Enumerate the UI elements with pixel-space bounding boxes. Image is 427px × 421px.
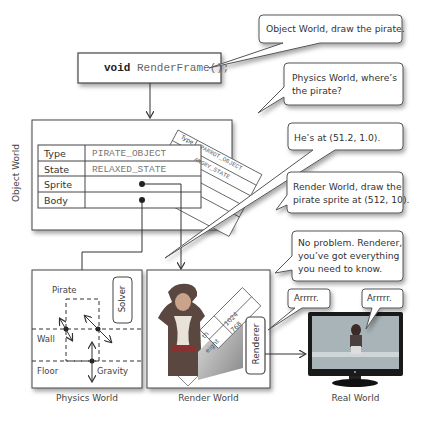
code-render-frame: void RenderFrame(); — [104, 62, 229, 74]
row-body-label: Body — [44, 195, 68, 206]
code-keyword: void — [104, 62, 130, 74]
bubble-5-line-3: you need to know. — [298, 262, 402, 275]
bubble-1-text: Object World, draw the pirate. — [266, 22, 405, 35]
sprite-pointer-dot — [139, 181, 145, 187]
real-world-caption: Real World — [308, 393, 403, 403]
solver-label: Solver — [117, 279, 127, 319]
bubble-7-text: Arrrrr. — [367, 292, 392, 305]
render-world-caption: Render World — [147, 393, 270, 403]
bubble-5-line-1: No problem. Renderer, — [298, 236, 402, 249]
row-state-label: State — [44, 164, 69, 175]
bubble-3-text: He’s at (51.2, 1.0). — [294, 131, 380, 144]
bubble-2-line-2: the pirate? — [292, 84, 397, 97]
bubble-5-text: No problem. Renderer, you’ve got everyth… — [298, 236, 402, 275]
gravity-label: Gravity — [97, 366, 128, 376]
row-type-label: Type — [44, 148, 66, 159]
row-type-value: PIRATE_OBJECT — [92, 148, 166, 159]
floor-label: Floor — [37, 366, 58, 376]
bubble-2-line-1: Physics World, where’s — [292, 71, 397, 84]
bubble-2-text: Physics World, where’s the pirate? — [292, 71, 397, 97]
object-world-label: Object World — [11, 143, 21, 203]
row-sprite-label: Sprite — [44, 179, 72, 190]
monitor-image — [308, 312, 403, 387]
body-pointer-dot — [139, 197, 145, 203]
bubble-4-line-1: Render World, draw the — [293, 180, 409, 193]
bubble-6-text: Arrrrr. — [294, 292, 319, 305]
bubble-4-line-2: pirate sprite at (512, 10). — [293, 193, 409, 206]
wall-label: Wall — [37, 334, 55, 344]
renderer-label: Renderer — [251, 315, 261, 373]
bubble-5-line-2: you’ve got everything — [298, 249, 402, 262]
code-call: RenderFrame(); — [137, 62, 229, 74]
row-state-value: RELAXED_STATE — [92, 164, 166, 175]
bubble-4-text: Render World, draw the pirate sprite at … — [293, 180, 409, 206]
physics-world-caption: Physics World — [32, 393, 142, 403]
pirate-label: Pirate — [52, 285, 77, 295]
